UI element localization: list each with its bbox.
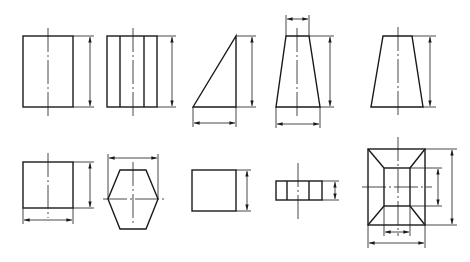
figure-5-trapezoid-view	[371, 27, 436, 118]
corner-edge	[368, 149, 384, 168]
figure-4-outline	[276, 36, 320, 107]
technical-drawing-canvas	[0, 0, 470, 262]
figure-8-outline	[192, 170, 236, 211]
figure-8-plain-rectangle-view	[192, 170, 251, 211]
figure-7-hexagon-view	[103, 154, 165, 229]
figure-10-frustum-top-view	[362, 137, 457, 248]
figure-1-rectangle-view	[23, 28, 94, 117]
figure-9-outline	[276, 181, 322, 200]
figure-9-thin-prism-view	[276, 163, 339, 222]
corner-edge	[410, 149, 425, 168]
figure-3-outline	[193, 36, 236, 107]
corner-edge	[410, 206, 425, 225]
corner-edge	[368, 206, 384, 225]
figure-2-outline	[107, 36, 157, 107]
figure-5-outline	[371, 36, 423, 107]
figure-4-trapezoid-view-dimensioned	[276, 15, 334, 128]
figure-2-multi-face-prism-view	[107, 28, 176, 117]
figure-3-right-triangle-view	[193, 36, 256, 127]
figure-6-square-view	[23, 153, 94, 224]
